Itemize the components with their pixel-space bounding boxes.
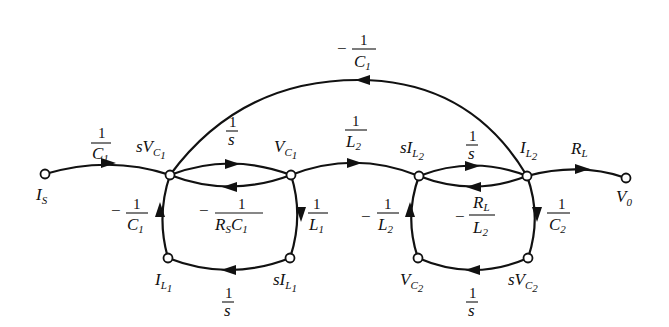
gain-il2-svc1-feedback: − 1 C1 (336, 32, 376, 72)
svg-text:1: 1 (313, 196, 321, 212)
edge-il2-to-svc2 (527, 176, 535, 258)
label-svc2: sVC2 (508, 270, 538, 294)
svg-text:s: s (228, 130, 235, 149)
svg-text:1: 1 (558, 196, 566, 212)
node-sil1 (286, 254, 295, 263)
label-il2: IL2 (519, 138, 538, 162)
label-is: IS (35, 185, 48, 206)
svg-text:C1: C1 (354, 52, 371, 72)
gain-vc1-svc1: − 1 RSC1 (198, 196, 263, 235)
arrow-icon (347, 158, 362, 168)
svg-text:−: − (360, 207, 371, 226)
gain-svc2-vc2: 1 s (466, 285, 478, 320)
svg-text:C1: C1 (127, 215, 144, 235)
label-vc2: VC2 (400, 270, 424, 294)
svg-text:1: 1 (469, 128, 477, 144)
svg-text:1: 1 (225, 285, 233, 301)
svg-text:s: s (468, 144, 475, 163)
gain-is-svc1: 1 C1 (91, 125, 111, 164)
gain-vc1-sil1: 1 L1 (308, 196, 328, 235)
svg-text:s: s (224, 301, 231, 320)
node-is (41, 170, 50, 179)
node-svc2 (524, 254, 533, 263)
node-vc1 (287, 171, 296, 180)
arrow-icon (222, 182, 237, 192)
svg-text:1: 1 (352, 113, 360, 129)
arrow-icon (575, 164, 590, 174)
gain-il2-sil2: − RL L2 (454, 193, 495, 238)
svg-text:−: − (336, 39, 347, 58)
node-il2 (523, 172, 532, 181)
svg-text:L2: L2 (472, 218, 488, 238)
arrow-icon (532, 207, 542, 222)
svg-text:C1: C1 (92, 144, 109, 164)
svg-text:RSC1: RSC1 (214, 215, 248, 235)
label-vc1: VC1 (274, 137, 297, 161)
label-sil2: sIL2 (400, 138, 424, 162)
arrow-icon (466, 182, 481, 192)
label-sil1: sIL1 (273, 270, 297, 294)
label-il1: IL1 (154, 270, 172, 294)
node-sil2 (415, 172, 424, 181)
svg-text:RL: RL (472, 193, 490, 213)
edge-vc1-to-sil1 (290, 175, 297, 258)
arrow-icon (221, 265, 236, 275)
gain-vc1-sil2: 1 L2 (345, 113, 367, 152)
node-v0 (622, 174, 631, 183)
svg-text:L2: L2 (377, 215, 393, 235)
signal-flow-graph: IS sVC1 VC1 sIL2 IL2 V0 IL1 sIL1 VC2 sVC… (0, 0, 669, 327)
svg-text:1: 1 (384, 196, 392, 212)
svg-text:1: 1 (238, 196, 246, 212)
svg-text:−: − (454, 207, 465, 226)
gain-il1-svc1: − 1 C1 (110, 196, 148, 235)
svg-text:L1: L1 (308, 215, 324, 235)
arrow-icon (355, 75, 370, 85)
svg-text:1: 1 (229, 114, 237, 130)
svg-text:1: 1 (469, 285, 477, 301)
arrow-icon (465, 265, 480, 275)
svg-text:1: 1 (360, 32, 368, 48)
svg-text:1: 1 (133, 196, 141, 212)
arrow-icon (405, 202, 415, 217)
node-il1 (164, 254, 173, 263)
gain-il2-svc2: 1 C2 (547, 196, 570, 235)
svg-text:−: − (198, 201, 209, 220)
gain-vc2-sil2: − 1 L2 (360, 196, 399, 235)
svg-text:−: − (110, 201, 121, 220)
svg-text:RL: RL (570, 139, 588, 159)
svg-text:s: s (468, 301, 475, 320)
edge-is-to-svc1 (45, 165, 170, 175)
label-v0: V0 (616, 187, 632, 208)
gain-sil2-il2: 1 s (466, 128, 478, 163)
svg-text:1: 1 (98, 125, 106, 141)
node-svc1 (166, 171, 175, 180)
gain-sil1-il1: 1 s (222, 285, 234, 320)
svg-text:L2: L2 (345, 132, 361, 152)
arrow-icon (225, 159, 240, 169)
label-svc1: sVC1 (136, 137, 166, 161)
svg-text:C2: C2 (549, 215, 566, 235)
gain-il2-v0: RL (570, 139, 588, 159)
node-vc2 (414, 254, 423, 263)
